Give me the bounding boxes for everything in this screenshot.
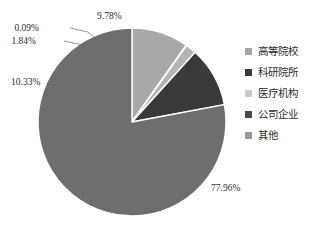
legend-label-keyanyuansuo: 科研院所: [258, 66, 298, 79]
pie-label-qita: 77.96%: [211, 183, 240, 193]
legend-label-qita: 其他: [258, 129, 278, 142]
legend-swatch-gaodengyuanxiao: [245, 48, 252, 55]
legend-label-yiliaojigou: 医疗机构: [258, 87, 298, 100]
legend-label-gongsiqiye: 公司企业: [258, 108, 298, 121]
legend-item-yiliaojigou[interactable]: 医疗机构: [245, 87, 314, 100]
pie-label-keyanyuansuo: 0.09%: [14, 23, 39, 33]
legend-item-gongsiqiye[interactable]: 公司企业: [245, 108, 314, 121]
legend-item-qita[interactable]: 其他: [245, 129, 314, 142]
legend-item-gaodengyuanxiao[interactable]: 高等院校: [245, 45, 314, 58]
pie-label-gaodengyuanxiao: 9.78%: [97, 11, 122, 21]
pie-slices: [38, 28, 226, 216]
legend-swatch-yiliaojigou: [245, 90, 252, 97]
legend-swatch-gongsiqiye: [245, 111, 252, 118]
legend-swatch-keyanyuansuo: [245, 69, 252, 76]
pie-label-yiliaojigou: 1.84%: [11, 36, 36, 46]
legend-label-gaodengyuanxiao: 高等院校: [258, 45, 298, 58]
legend-item-keyanyuansuo[interactable]: 科研院所: [245, 66, 314, 79]
chart-legend: 高等院校 科研院所 医疗机构 公司企业 其他: [245, 45, 314, 142]
legend-swatch-qita: [245, 132, 252, 139]
pie-chart: 9.78% 0.09% 1.84% 10.33% 77.96% 高等院校 科研院…: [0, 0, 314, 231]
pie-label-gongsiqiye: 10.33%: [11, 77, 40, 87]
